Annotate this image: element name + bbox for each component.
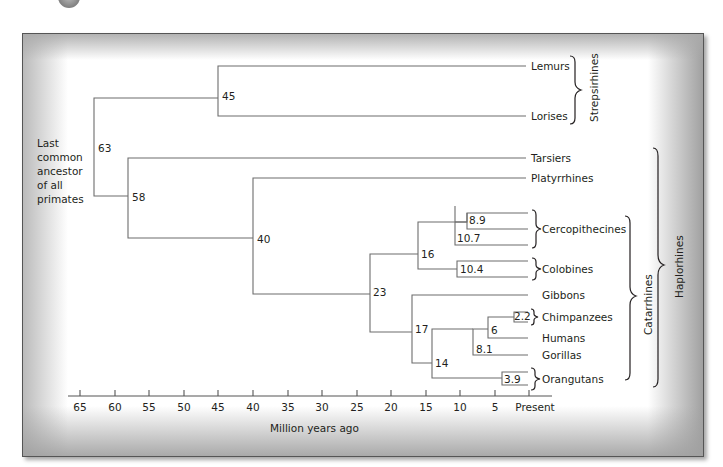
tick-35: 35 [281,401,294,413]
tick-15: 15 [419,401,432,413]
tick-60: 60 [108,401,121,413]
taxon-tarsiers: Tarsiers [530,152,571,164]
tick-20: 20 [384,401,397,413]
brace-haplorhines [653,148,664,387]
node-label-16: 16 [421,248,435,260]
taxon-lorises: Lorises [531,110,568,122]
node-label-10-7: 10.7 [457,232,480,244]
group-haplorhines: Haplorhines [673,235,685,298]
x-axis-label: Million years ago [270,422,359,434]
node-label-2-2: 2.2 [514,310,531,322]
x-axis [68,390,552,396]
tick-10: 10 [453,401,466,413]
node-label-8-9: 8.9 [469,214,486,226]
branch-strepsirhines [218,66,526,116]
tick-50: 50 [177,401,190,413]
tick-40: 40 [246,401,259,413]
brace-colobines [532,258,541,280]
brace-strepsirhines [570,56,581,124]
brace-orangutans [531,368,540,390]
branch-old-world-monkeys [418,222,457,269]
branch-haplorhines [128,158,526,238]
taxon-colobines: Colobines [542,263,593,275]
taxon-chimpanzees: Chimpanzees [542,311,613,323]
brace-cercopithecines [532,210,541,248]
taxon-humans: Humans [542,332,585,344]
tick-45: 45 [211,401,224,413]
tick-present: Present [515,401,554,413]
branch-root [94,98,218,196]
node-label-17: 17 [415,323,428,335]
tick-5: 5 [492,401,499,413]
node-label-14: 14 [435,357,449,369]
taxon-cercopithecines: Cercopithecines [542,223,626,235]
taxon-orangutans: Orangutans [542,373,604,385]
node-label-40: 40 [257,233,270,245]
node-label-63: 63 [98,142,111,154]
brace-chimpanzees [531,309,538,325]
node-label-45: 45 [222,90,235,102]
node-label-6: 6 [491,324,498,336]
node-label-23: 23 [373,286,386,298]
node-label-8-1: 8.1 [476,343,493,355]
taxon-gibbons: Gibbons [542,289,585,301]
node-label-3-9: 3.9 [504,373,521,385]
group-catarrhines: Catarrhines [642,274,654,335]
tick-25: 25 [350,401,363,413]
x-axis-ticks: 65 60 55 50 45 40 35 30 25 20 15 10 5 Pr… [73,401,554,413]
tick-55: 55 [142,401,155,413]
taxon-lemurs: Lemurs [531,60,570,72]
node-label-58: 58 [132,191,145,203]
brace-catarrhines [625,216,636,380]
group-strepsirhines: Strepsirhines [588,53,600,122]
taxon-platyrrhines: Platyrrhines [531,172,593,184]
taxon-gorillas: Gorillas [542,349,582,361]
tick-65: 65 [73,401,86,413]
phylogeny-diagram: 63 45 58 40 23 16 8.9 10.7 10.4 17 [0,0,723,467]
node-label-10-4: 10.4 [460,263,484,275]
tick-30: 30 [315,401,328,413]
